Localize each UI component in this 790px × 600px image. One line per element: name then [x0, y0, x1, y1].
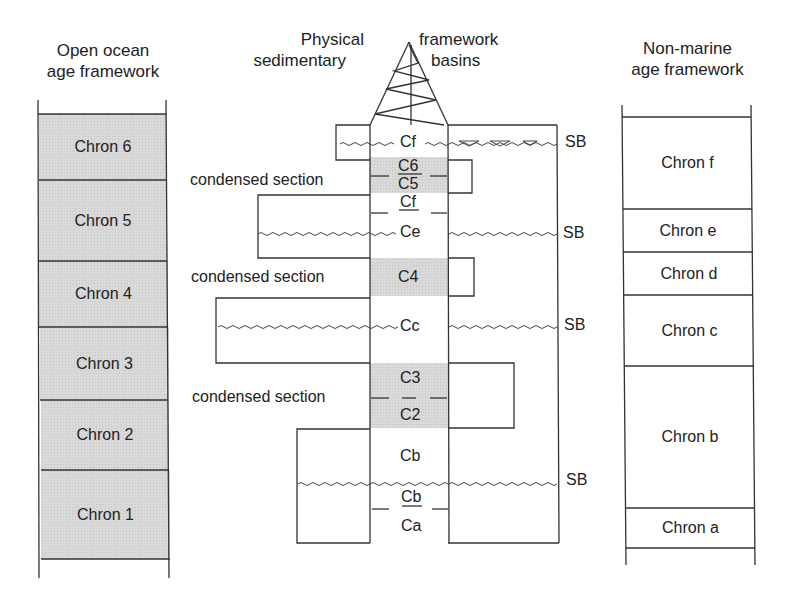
unit-cc: Cc — [398, 317, 422, 335]
sb-label-1: SB — [565, 133, 586, 151]
condensed-section-label-1: condensed section — [190, 171, 323, 189]
chron-b-label: Chron b — [662, 428, 719, 446]
unit-cb-lower: Cb — [401, 488, 421, 506]
unit-cf-lower: Cf — [400, 193, 416, 211]
chron-a-cell: Chron a — [626, 508, 755, 548]
unit-c4: C4 — [398, 268, 418, 286]
chron-c-cell: Chron c — [625, 295, 754, 366]
chron-a-label: Chron a — [662, 519, 719, 537]
chron-e-label: Chron e — [660, 222, 717, 240]
unit-cb-upper: Cb — [400, 447, 420, 465]
condensed-section-label-3: condensed section — [192, 388, 325, 406]
chron-f-cell: Chron f — [623, 117, 752, 209]
sb-label-3: SB — [564, 316, 585, 334]
non-marine-title: Non-marine age framework — [605, 38, 770, 80]
center-title-left: Physical sedimentary — [250, 29, 390, 71]
chron-c-label: Chron c — [661, 322, 717, 340]
center-title-right: framework basins — [419, 29, 549, 71]
center-title-physical: Physical — [250, 29, 390, 50]
unit-c3: C3 — [400, 369, 420, 387]
condensed-section-label-2: condensed section — [191, 268, 324, 286]
sb-label-4: SB — [566, 471, 587, 489]
unit-c6: C6 — [398, 157, 418, 175]
chron-b-cell: Chron b — [625, 366, 755, 508]
center-title-framework: framework — [419, 29, 549, 50]
chron-d-label: Chron d — [661, 265, 718, 283]
chron-e-cell: Chron e — [623, 209, 753, 252]
unit-c5: C5 — [398, 175, 418, 193]
non-marine-title-line2: age framework — [605, 59, 770, 80]
unit-ca: Ca — [401, 517, 421, 535]
chron-f-label: Chron f — [661, 154, 713, 172]
sb-label-2: SB — [563, 224, 584, 242]
non-marine-title-line1: Non-marine — [605, 38, 770, 59]
center-title-basins: basins — [419, 50, 549, 71]
center-title-sedimentary: sedimentary — [250, 50, 390, 71]
unit-ce: Ce — [398, 223, 422, 241]
unit-cf-top: Cf — [398, 133, 418, 151]
chron-d-cell: Chron d — [624, 252, 754, 295]
unit-c2: C2 — [400, 406, 420, 424]
